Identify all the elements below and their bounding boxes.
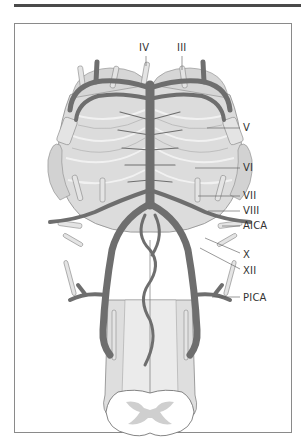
label-cn-iv: IV (139, 42, 149, 53)
medulla (104, 240, 197, 418)
spinal-cord-cross-section (106, 390, 194, 436)
label-cn-viii: VIII (243, 205, 260, 216)
label-cn-iii: III (177, 42, 186, 53)
label-cn-vi: VI (243, 162, 253, 173)
label-pica: PICA (243, 292, 267, 303)
label-cn-xii: XII (243, 265, 256, 276)
label-aica: AICA (243, 220, 267, 231)
label-cn-x: X (243, 249, 250, 260)
label-cn-v: V (243, 122, 250, 133)
label-cn-vii: VII (243, 190, 256, 201)
